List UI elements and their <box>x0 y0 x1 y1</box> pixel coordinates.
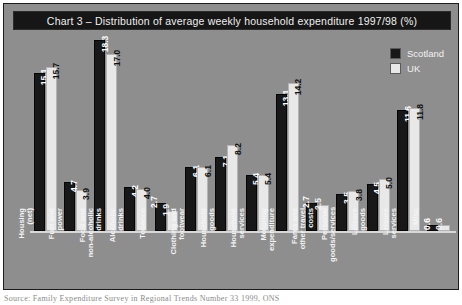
bar-group: 18.317.0 <box>91 40 121 231</box>
bar-group: 15.115.7 <box>30 40 60 231</box>
bar-value-label: 2.7 <box>301 196 312 208</box>
bar-scotland: 5.4 <box>246 175 257 231</box>
bar-group: 2.72.5 <box>303 40 333 231</box>
bar-uk: 15.7 <box>46 67 57 231</box>
x-axis-label-line: (net) <box>26 208 34 262</box>
bar-value-label: 2.7 <box>149 196 160 208</box>
x-axis-label-line: costs <box>307 208 315 262</box>
bar-scotland: 11.6 <box>397 110 408 231</box>
bar-group: 4.55.0 <box>363 40 393 231</box>
bar-scotland: 6.1 <box>185 167 196 231</box>
bar-group: 4.24.0 <box>121 40 151 231</box>
x-axis-label-line: Misc <box>412 208 420 262</box>
x-axis-label: Householdgoods <box>200 208 216 262</box>
x-axis-label-line: drinks <box>95 208 103 262</box>
bar-uk: 17.0 <box>106 54 117 231</box>
x-axis-label-line: goods <box>208 208 216 262</box>
bar-group: 7.18.2 <box>212 40 242 231</box>
bar-group: 5.45.4 <box>242 40 272 231</box>
bar-group: 6.16.1 <box>181 40 211 231</box>
x-axis-label-line: services <box>390 208 398 262</box>
x-axis-label: Fares andother travelcosts <box>291 208 316 262</box>
bar-group: 2.71.9 <box>151 40 181 231</box>
bar-value-label: 18.3 <box>100 36 111 53</box>
bar-value-label: 0.6 <box>422 218 433 230</box>
x-axis-label-line: goods/services <box>329 208 337 262</box>
x-axis-label: Tobacco <box>139 208 147 262</box>
bar-scotland: 15.1 <box>34 73 45 231</box>
x-axis-label: Clothing andfootwear <box>170 208 186 262</box>
x-axis-labels: Housing(net)Fuel andpowerFood andnon-alc… <box>30 234 454 290</box>
x-axis-label: Fuel andpower <box>48 208 64 262</box>
bar-group: 0.60.6 <box>424 40 454 231</box>
x-axis-label-line: goods <box>359 208 367 262</box>
x-axis-label-cell: Misc <box>424 234 454 290</box>
x-axis-label: Personalgoods/services <box>321 208 337 262</box>
x-axis-label: Misc <box>412 208 420 262</box>
bar-group: 4.73.9 <box>60 40 90 231</box>
bar-group: 11.611.8 <box>393 40 423 231</box>
x-axis-label-line: power <box>57 208 65 262</box>
x-axis-label: Food andnon-alcoholicdrinks <box>79 208 104 262</box>
page-title: Chart 3 – Distribution of average weekly… <box>47 15 417 27</box>
bar-scotland: 13.1 <box>276 94 287 231</box>
bar-groups: 15.115.74.73.918.317.04.24.02.71.96.16.1… <box>30 40 454 231</box>
x-axis-label-line: expenditure <box>269 208 277 262</box>
x-axis-label: Alcoholicdrinks <box>109 208 125 262</box>
x-axis-label: Housing(net) <box>18 208 34 262</box>
bar-scotland: 4.5 <box>367 184 378 231</box>
chart-title-bar: Chart 3 – Distribution of average weekly… <box>13 11 451 30</box>
bar-scotland: 7.1 <box>215 157 226 231</box>
x-axis-label-line: drinks <box>117 208 125 262</box>
x-axis-label: Motoringexpenditure <box>260 208 276 262</box>
bar-group: 13.114.2 <box>272 40 302 231</box>
bar-scotland: 4.2 <box>124 187 135 231</box>
x-axis-label: Householdservices <box>230 208 246 262</box>
x-axis-label-line: services <box>238 208 246 262</box>
bar-scotland: 3.5 <box>336 194 347 231</box>
bar-scotland: 4.7 <box>64 182 75 231</box>
chart-screenshot: Chart 3 – Distribution of average weekly… <box>0 0 462 305</box>
bar-scotland: 18.3 <box>94 40 105 231</box>
x-axis-label: Leisureservices <box>382 208 398 262</box>
chart-panel: Chart 3 – Distribution of average weekly… <box>3 3 459 290</box>
bar-group: 3.53.8 <box>333 40 363 231</box>
source-note: Source: Family Expenditure Survey in Reg… <box>4 294 280 303</box>
x-axis-label: Leisuregoods <box>351 208 367 262</box>
x-axis-label-line: Tobacco <box>139 208 147 262</box>
x-axis-label-line: footwear <box>178 208 186 262</box>
bar-value-label: 0.6 <box>434 218 445 230</box>
